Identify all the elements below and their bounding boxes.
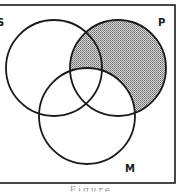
venn-diagram xyxy=(0,0,182,195)
label-s: S xyxy=(0,18,4,28)
label-m: M xyxy=(125,164,135,174)
label-p: P xyxy=(158,18,165,28)
